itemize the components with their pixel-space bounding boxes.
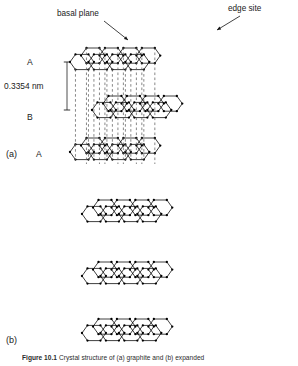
carbon-atom <box>133 101 135 103</box>
carbon-atom <box>123 275 125 277</box>
carbon-atom <box>92 268 94 270</box>
carbon-atom <box>155 324 157 326</box>
carbon-atom <box>110 318 112 320</box>
carbon-atom <box>105 205 107 207</box>
carbon-atom <box>171 268 173 270</box>
carbon-atom <box>99 339 101 341</box>
lattice-bond <box>93 208 98 216</box>
carbon-atom <box>129 214 131 216</box>
lattice-bond <box>167 319 172 327</box>
carbon-atom <box>159 54 161 56</box>
figure-caption-prefix: Figure 10.1 <box>22 354 57 361</box>
panel-b-exfoliated <box>81 199 174 342</box>
lattice-bond <box>92 102 97 110</box>
carbon-atom <box>110 261 112 263</box>
carbon-atom <box>106 53 108 55</box>
carbon-atom <box>157 102 159 104</box>
carbon-atom <box>139 95 141 97</box>
carbon-atom <box>146 109 148 111</box>
carbon-atom <box>81 275 83 277</box>
carbon-atom <box>86 205 88 207</box>
basal-plane-leader <box>104 21 128 40</box>
carbon-atom <box>111 53 113 55</box>
carbon-atom <box>99 220 101 222</box>
carbon-atom <box>142 220 144 222</box>
carbon-atom <box>118 267 120 269</box>
lattice-bond <box>103 104 108 112</box>
lattice-bond <box>156 206 161 214</box>
lattice-bond <box>155 146 160 154</box>
figure-caption-text: Crystal structure of (a) graphite and (b… <box>59 354 204 361</box>
carbon-atom <box>129 268 131 270</box>
carbon-atom <box>99 267 101 269</box>
panel-label-a: (a) <box>6 150 17 159</box>
carbon-atom <box>134 333 136 335</box>
carbon-atom <box>163 102 165 104</box>
carbon-atom <box>116 276 118 278</box>
carbon-atom <box>116 318 118 320</box>
lattice-bond <box>155 138 160 146</box>
carbon-atom <box>110 325 112 327</box>
carbon-atom <box>111 61 113 63</box>
carbon-atom <box>142 324 144 326</box>
graphene-sheet-1 <box>81 199 174 223</box>
carbon-atom <box>99 213 101 215</box>
stack-label-a-top: A <box>27 58 33 67</box>
carbon-atom <box>86 220 88 222</box>
carbon-atom <box>97 333 99 335</box>
carbon-atom <box>115 109 117 111</box>
carbon-atom <box>147 268 149 270</box>
carbon-atom <box>129 206 131 208</box>
carbon-atom <box>110 206 112 208</box>
carbon-atom <box>93 61 95 63</box>
lattice-bond <box>82 268 87 276</box>
carbon-atom <box>166 276 168 278</box>
carbon-atom <box>118 324 120 326</box>
carbon-atom <box>128 109 130 111</box>
carbon-atom <box>155 220 157 222</box>
carbon-atom <box>136 275 138 277</box>
carbon-atom <box>109 109 111 111</box>
carbon-atom <box>105 282 107 284</box>
carbon-atom <box>123 282 125 284</box>
carbon-atom <box>129 199 131 201</box>
carbon-atom <box>153 199 155 201</box>
carbon-atom <box>133 109 135 111</box>
carbon-atom <box>128 101 130 103</box>
carbon-atom <box>139 110 141 112</box>
carbon-atom <box>86 339 88 341</box>
carbon-atom <box>116 214 118 216</box>
carbon-atom <box>105 213 107 215</box>
carbon-atom <box>163 110 165 112</box>
carbon-atom <box>96 101 98 103</box>
carbon-atom <box>120 102 122 104</box>
carbon-atom <box>166 214 168 216</box>
carbon-atom <box>166 333 168 335</box>
lattice-bond <box>155 56 160 64</box>
carbon-atom <box>166 318 168 320</box>
lattice-bond <box>144 54 149 62</box>
carbon-atom <box>105 267 107 269</box>
carbon-atom <box>105 339 107 341</box>
carbon-atom <box>146 101 148 103</box>
carbon-atom <box>136 324 138 326</box>
stack-label-b: B <box>27 113 33 122</box>
carbon-atom <box>126 102 128 104</box>
edge-site-leader <box>217 16 240 30</box>
carbon-atom <box>105 332 107 334</box>
carbon-atom <box>142 339 144 341</box>
graphite-structure-drawing <box>0 0 298 366</box>
carbon-atom <box>129 333 131 335</box>
carbon-atom <box>110 268 112 270</box>
graphite-layer-a-0 <box>69 47 162 71</box>
lattice-bond <box>156 325 161 333</box>
carbon-atom <box>93 53 95 55</box>
carbon-atom <box>97 276 99 278</box>
carbon-atom <box>124 61 126 63</box>
carbon-atom <box>99 324 101 326</box>
carbon-atom <box>147 199 149 201</box>
stack-label-a-bottom: A <box>36 150 42 159</box>
figure-root: basal plane edge site A 0.3354 nm B (a) … <box>0 0 298 366</box>
carbon-atom <box>105 324 107 326</box>
carbon-atom <box>124 53 126 55</box>
